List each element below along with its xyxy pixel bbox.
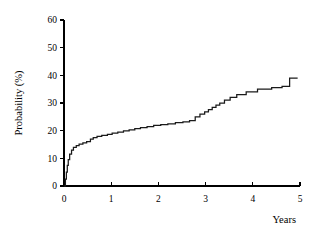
x-tick-label: 3 bbox=[203, 194, 208, 204]
chart-background bbox=[0, 0, 324, 240]
x-tick-label: 5 bbox=[298, 194, 303, 204]
y-tick-label: 30 bbox=[48, 98, 58, 108]
probability-vs-years-chart: 0102030405060 012345 Probability (%) Yea… bbox=[0, 0, 324, 240]
y-tick-label: 20 bbox=[48, 126, 58, 136]
x-tick-label: 2 bbox=[156, 194, 161, 204]
x-axis-title: Years bbox=[273, 214, 296, 225]
y-tick-label: 10 bbox=[48, 154, 58, 164]
x-tick-label: 1 bbox=[109, 194, 114, 204]
y-axis-title: Probability (%) bbox=[13, 70, 25, 136]
y-tick-label: 60 bbox=[48, 15, 58, 25]
y-tick-label: 0 bbox=[52, 181, 57, 191]
chart-figure: 0102030405060 012345 Probability (%) Yea… bbox=[0, 0, 324, 240]
y-tick-label: 50 bbox=[48, 43, 58, 53]
x-tick-label: 0 bbox=[62, 194, 67, 204]
y-tick-label: 40 bbox=[48, 71, 58, 81]
x-tick-label: 4 bbox=[250, 194, 255, 204]
